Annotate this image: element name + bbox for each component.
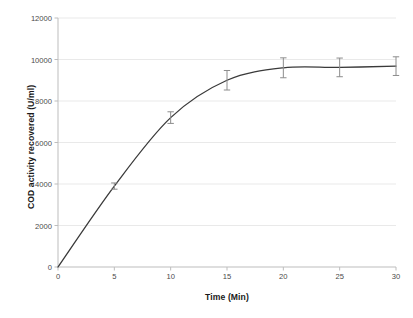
chart-figure: COD activity recovered (U/ml) 0200040006… xyxy=(0,0,413,318)
data-series-line xyxy=(58,66,396,267)
x-tick-label: 0 xyxy=(43,272,73,281)
x-axis-title: Time (Min) xyxy=(58,292,396,302)
plot-canvas xyxy=(0,0,413,318)
x-tick-label: 5 xyxy=(99,272,129,281)
x-tick-label: 30 xyxy=(381,272,411,281)
x-tick-label: 25 xyxy=(325,272,355,281)
x-tick-label: 20 xyxy=(268,272,298,281)
x-tick-label: 10 xyxy=(156,272,186,281)
x-tick-label: 15 xyxy=(212,272,242,281)
